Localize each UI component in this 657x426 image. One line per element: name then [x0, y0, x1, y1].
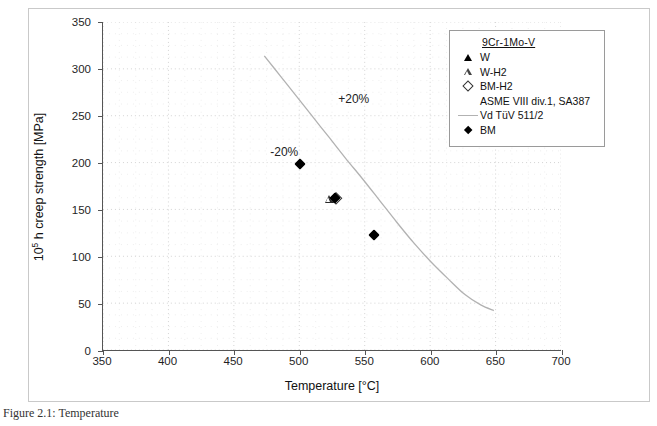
figure-caption: Figure 2.1: Temperature: [3, 406, 119, 421]
x-tick-label: 550: [355, 355, 374, 367]
x-tick-label: 700: [551, 355, 570, 367]
x-tick-label: 400: [158, 355, 177, 367]
legend: 9Cr-1Mo-V WW-H2BM-H2ASME VIII div.1, SA3…: [449, 30, 605, 147]
y-tick: [98, 22, 103, 23]
legend-label: W-H2: [480, 66, 507, 78]
x-tick-label: 650: [486, 355, 505, 367]
y-tick-label: 50: [78, 298, 91, 310]
legend-item-vd-t-v-511-2: Vd TüV 511/2: [456, 108, 598, 123]
annotation-20: -20%: [270, 145, 298, 159]
x-axis-title: Temperature [°C]: [285, 379, 380, 393]
y-tick-label: 150: [72, 204, 91, 216]
legend-item-bm-h2: BM-H2: [456, 79, 598, 94]
legend-item-asme-viii-div-1-sa387: ASME VIII div.1, SA387: [456, 94, 598, 109]
y-axis-title: 105 h creep strength [MPa]: [30, 113, 46, 262]
legend-item-bm: BM: [456, 123, 598, 138]
y-tick-label: 0: [85, 345, 91, 357]
legend-label: BM-H2: [480, 80, 513, 92]
y-tick: [98, 163, 103, 164]
legend-marker-diamond-filled-icon: [456, 127, 480, 133]
legend-marker-triangle-filled-icon: [456, 54, 480, 61]
legend-label: ASME VIII div.1, SA387: [480, 95, 590, 107]
y-tick-label: 350: [72, 16, 91, 28]
y-tick: [98, 116, 103, 117]
y-tick: [98, 304, 103, 305]
annotation-20: +20%: [338, 92, 369, 106]
legend-label: BM: [480, 124, 496, 136]
x-tick-label: 450: [224, 355, 243, 367]
legend-marker-triangle-open-icon: [456, 68, 480, 75]
x-tick-label: 500: [289, 355, 308, 367]
legend-label: Vd TüV 511/2: [480, 109, 543, 121]
y-tick: [98, 210, 103, 211]
legend-marker-line-icon: [456, 115, 480, 116]
y-tick-label: 250: [72, 110, 91, 122]
y-tick: [98, 69, 103, 70]
legend-item-w-h2: W-H2: [456, 65, 598, 80]
legend-marker-diamond-open-icon: [456, 82, 480, 90]
legend-rows: WW-H2BM-H2ASME VIII div.1, SA387Vd TüV 5…: [456, 50, 598, 137]
y-tick-label: 300: [72, 63, 91, 75]
y-tick-label: 100: [72, 251, 91, 263]
x-tick-label: 600: [420, 355, 439, 367]
y-tick-label: 200: [72, 157, 91, 169]
legend-label: W: [480, 51, 490, 63]
legend-title: 9Cr-1Mo-V: [482, 36, 598, 48]
y-tick: [98, 257, 103, 258]
legend-item-w: W: [456, 50, 598, 65]
x-tick-label: 350: [92, 355, 111, 367]
